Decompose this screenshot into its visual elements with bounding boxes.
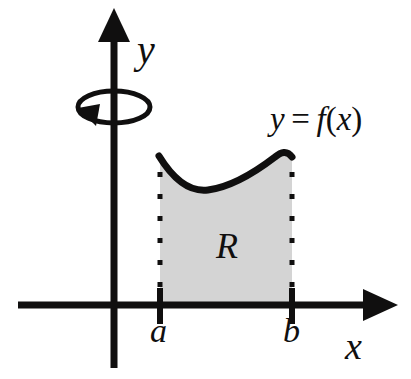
curve-label-f: f	[317, 101, 326, 137]
x-axis-label: x	[345, 327, 362, 365]
curve-label-equals: =	[291, 101, 310, 137]
y-axis-label: y	[137, 30, 155, 70]
y-axis-arrowhead	[98, 8, 130, 42]
curve-label-argument: x	[337, 101, 352, 137]
tick-label-a: a	[150, 314, 167, 348]
diagram-vector-layer	[0, 0, 411, 379]
tick-label-b: b	[283, 314, 300, 348]
x-axis-arrowhead	[363, 289, 398, 321]
region-label: R	[216, 228, 238, 264]
curve-equation-label: y = f(x)	[270, 103, 362, 136]
curve-label-close-paren: )	[351, 101, 362, 137]
curve-label-y: y	[270, 101, 285, 137]
diagram-canvas: y x a b R y = f(x)	[0, 0, 411, 379]
curve-label-open-paren: (	[326, 101, 337, 137]
